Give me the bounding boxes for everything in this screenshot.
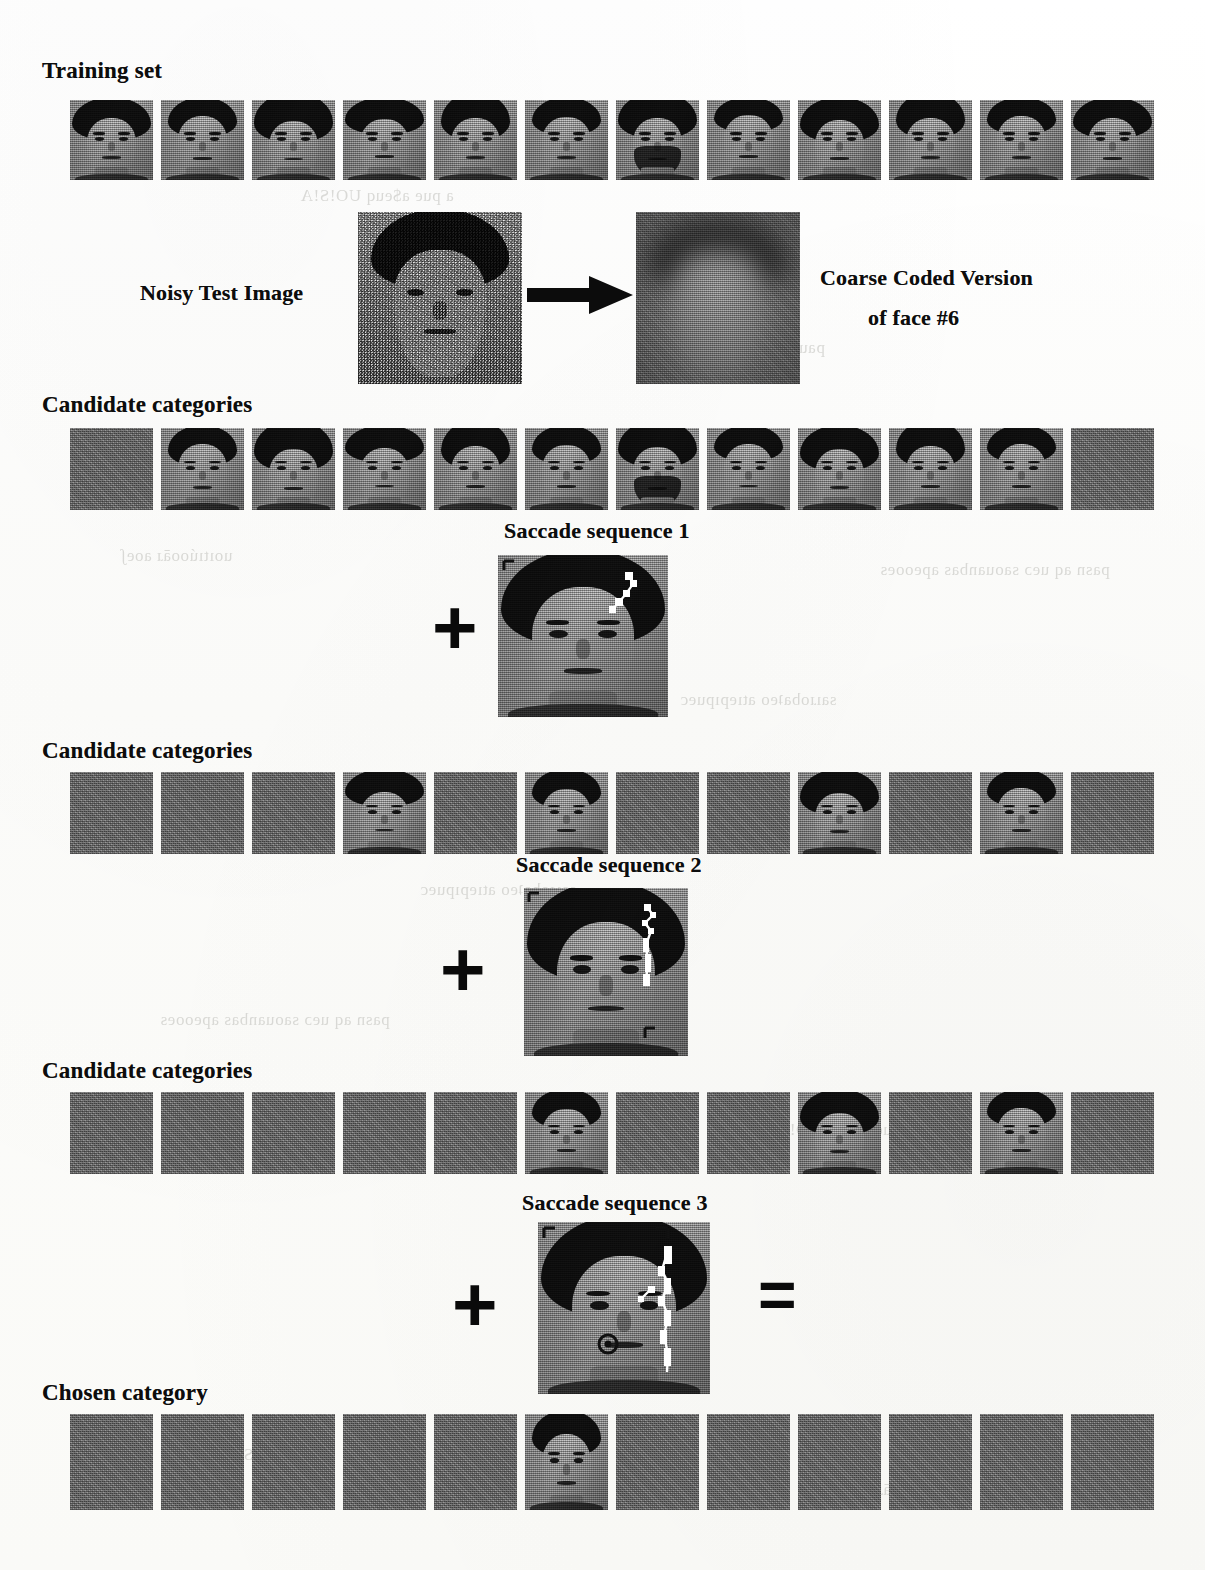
- empty-category-cell: [252, 1414, 335, 1510]
- category-row-chosen-category: [0, 0, 1205, 1570]
- empty-category-cell: [434, 1414, 517, 1510]
- plus-operator-3: +: [452, 1265, 498, 1343]
- empty-category-cell: [616, 1414, 699, 1510]
- label-training-set: Training set: [42, 58, 162, 84]
- label-candidate-categories-3: Candidate categories: [42, 1058, 252, 1084]
- label-coarse-coded-line1: Coarse Coded Version: [820, 265, 1033, 291]
- label-coarse-coded-line2: of face #6: [868, 305, 959, 331]
- empty-category-cell: [161, 1414, 244, 1510]
- label-chosen-category: Chosen category: [42, 1380, 208, 1406]
- empty-category-cell: [343, 1414, 426, 1510]
- label-noisy-test-image: Noisy Test Image: [140, 280, 303, 306]
- empty-category-cell: [70, 1414, 153, 1510]
- empty-category-cell: [798, 1414, 881, 1510]
- equals-operator: =: [758, 1262, 797, 1328]
- empty-category-cell: [1071, 1414, 1154, 1510]
- empty-category-cell: [707, 1414, 790, 1510]
- empty-category-cell: [980, 1414, 1063, 1510]
- empty-category-cell: [889, 1414, 972, 1510]
- face-thumbnail: [525, 1414, 608, 1510]
- label-candidate-categories-1: Candidate categories: [42, 392, 252, 418]
- label-candidate-categories-2: Candidate categories: [42, 738, 252, 764]
- plus-operator-1: +: [432, 588, 478, 666]
- plus-operator-2: +: [440, 930, 486, 1008]
- transform-arrow: [527, 272, 635, 318]
- label-saccade-sequence-3: Saccade sequence 3: [522, 1190, 708, 1216]
- label-saccade-sequence-2: Saccade sequence 2: [516, 852, 702, 878]
- label-saccade-sequence-1: Saccade sequence 1: [504, 518, 690, 544]
